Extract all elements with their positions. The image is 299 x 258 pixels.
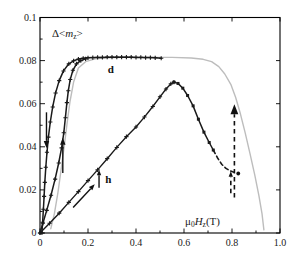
y-tick-label: 0.1 xyxy=(24,12,37,23)
marker-plus-d-branch-decreasing xyxy=(120,55,124,59)
marker-plus-d-branch-decreasing xyxy=(44,165,48,169)
x-tick-label: 0 xyxy=(38,237,43,248)
series-h-branch-descending-solid xyxy=(174,82,213,150)
marker-plus-d-branch-increasing xyxy=(57,161,61,165)
x-axis-label: μ0Hz(T) xyxy=(185,215,220,227)
marker-square-h-branch-descending-solid xyxy=(202,131,205,134)
x-tick-label: 0.8 xyxy=(226,237,239,248)
marker-plus-d-branch-decreasing xyxy=(51,105,55,109)
marker-plus-d-branch-decreasing xyxy=(54,91,58,95)
x-tick-label: 0.2 xyxy=(82,237,95,248)
marker-plus-d-branch-decreasing xyxy=(153,56,157,60)
marker-plus-d-branch-decreasing xyxy=(42,194,46,198)
x-tick-label: 0.4 xyxy=(130,237,143,248)
y-tick-label: 0.06 xyxy=(19,98,37,109)
marker-plus-d-branch-decreasing xyxy=(144,55,148,59)
marker-plus-d-branch-decreasing xyxy=(139,55,143,59)
y-label-prefix: Δ< xyxy=(52,27,65,39)
marker-plus-d-branch-increasing xyxy=(63,116,67,120)
marker-plus-d-branch-decreasing xyxy=(110,55,114,59)
marker-plus-d-branch-decreasing xyxy=(129,55,133,59)
marker-plus-d-branch-decreasing xyxy=(57,79,61,83)
marker-plus-d-branch-decreasing xyxy=(45,150,49,154)
y-tick-label: 0.02 xyxy=(19,184,37,195)
magnetization-hysteresis-chart: 00.20.40.60.81.000.020.040.060.080.1 Δ<m… xyxy=(0,0,299,258)
marker-plus-d-branch-increasing xyxy=(65,101,69,105)
marker-square-h-branch-descending-solid xyxy=(181,87,184,90)
marker-plus-d-branch-increasing xyxy=(49,193,53,197)
series-h-branch-descending-dashed xyxy=(213,150,234,172)
series-d-branch-decreasing xyxy=(42,57,161,233)
marker-plus-d-branch-decreasing xyxy=(48,120,52,124)
marker-plus-d-branch-increasing xyxy=(53,177,57,181)
marker-plus-d-branch-decreasing xyxy=(134,55,138,59)
x-label-unit: (T) xyxy=(206,215,220,227)
marker-plus-d-branch-decreasing xyxy=(115,55,119,59)
marker-square-h-branch-descending-solid xyxy=(192,104,195,107)
marker-plus-d-branch-decreasing xyxy=(148,55,152,59)
curve-label-d: d xyxy=(108,63,114,75)
marker-square-h-branch-descending-solid xyxy=(197,118,200,121)
marker-square-h-branch-descending-solid xyxy=(208,141,211,144)
marker-plus-d-branch-increasing xyxy=(66,89,70,93)
y-label-suffix: > xyxy=(77,27,83,39)
y-tick-label: 0.08 xyxy=(19,55,37,66)
marker-plus-d-branch-decreasing xyxy=(124,55,128,59)
diagonal-arrow-h-ascending-shaft xyxy=(73,189,91,208)
series-gray-loop xyxy=(51,57,264,229)
marker-square-h-branch-descending-solid xyxy=(186,94,189,97)
x-tick-label: 1.0 xyxy=(274,237,287,248)
y-tick-label: 0 xyxy=(32,227,37,238)
plot-canvas: 00.20.40.60.81.000.020.040.060.080.1 xyxy=(0,0,299,258)
x-tick-label: 0.6 xyxy=(178,237,191,248)
h-branch-end-dot xyxy=(236,172,240,176)
marker-square-h-branch-descending-solid xyxy=(177,82,180,85)
y-tick-label: 0.04 xyxy=(19,141,37,152)
marker-plus-d-branch-decreasing xyxy=(43,180,47,184)
marker-square-h-branch-descending-solid xyxy=(172,81,175,84)
large-dashed-up-arrow-head xyxy=(231,104,239,114)
marker-plus-d-branch-increasing xyxy=(68,77,72,81)
curve-label-h: h xyxy=(105,173,111,185)
x-label-H: H xyxy=(195,215,203,227)
y-axis-label: Δ<mz> xyxy=(52,27,83,39)
